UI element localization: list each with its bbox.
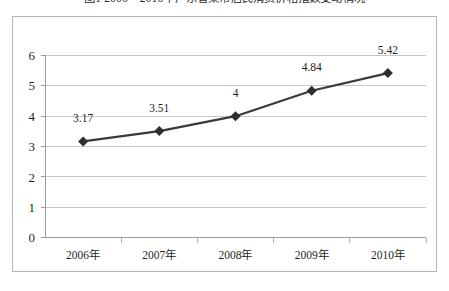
data-point-2007[interactable] [154, 126, 164, 136]
data-label-2006: 3.17 [63, 113, 103, 125]
x-tick-label-2010: 2010年 [350, 250, 426, 262]
data-point-2008[interactable] [231, 111, 241, 121]
chart-title: 图1 2006—2010年广东省某市居民消费价格指数变动情况 [0, 0, 449, 5]
x-tick-marks [121, 238, 426, 244]
data-label-2008: 4 [216, 88, 256, 100]
y-tick-label-4: 4 [13, 110, 35, 123]
y-tick-label-3: 3 [13, 140, 35, 153]
data-label-2007: 3.51 [139, 103, 179, 115]
y-tick-marks [41, 56, 45, 238]
y-tick-label-6: 6 [13, 49, 35, 62]
data-point-2010[interactable] [383, 68, 393, 78]
data-line [83, 73, 388, 141]
x-tick-label-2006: 2006年 [45, 250, 121, 262]
y-tick-label-2: 2 [13, 171, 35, 184]
data-point-2009[interactable] [307, 86, 317, 96]
chart-title-strip: 图1 2006—2010年广东省某市居民消费价格指数变动情况 [0, 0, 449, 12]
data-label-2009: 4.84 [292, 62, 332, 74]
x-tick-label-2007: 2007年 [121, 250, 197, 262]
data-label-2010: 5.42 [368, 45, 408, 57]
x-tick-label-2008: 2008年 [197, 250, 273, 262]
chart-frame: 6 5 4 3 2 1 0 2006年 2007年 2008年 2009年 20… [12, 16, 437, 272]
x-tick-label-2009: 2009年 [274, 250, 350, 262]
y-tick-label-5: 5 [13, 79, 35, 92]
y-tick-label-1: 1 [13, 201, 35, 214]
y-tick-label-0: 0 [13, 231, 35, 244]
data-point-2006[interactable] [78, 136, 88, 146]
